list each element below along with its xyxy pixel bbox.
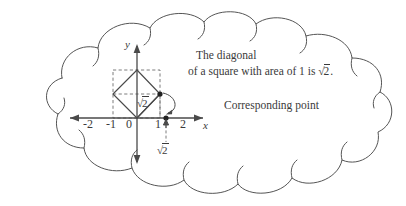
x-tick-label-one: 1 bbox=[155, 118, 161, 130]
x-axis-left-arrow bbox=[70, 115, 79, 122]
axis-radical: √2 bbox=[157, 145, 169, 156]
caption-line-1: The diagonal bbox=[196, 50, 256, 62]
x-axis-label: x bbox=[203, 120, 208, 131]
x-tick-label-two: 2 bbox=[180, 118, 186, 130]
cloud-puff-notches bbox=[58, 22, 380, 184]
caption-line-2: of a square with area of 1 is √2. bbox=[188, 66, 333, 78]
caption-radical: √2 bbox=[318, 66, 330, 78]
caption-period: . bbox=[330, 65, 333, 77]
diagonal-length-label: √2 bbox=[137, 98, 149, 109]
mapping-arc-arrowhead bbox=[166, 109, 173, 114]
x-tick-label-minus-2: -2 bbox=[83, 118, 93, 130]
figure-canvas: The diagonal of a square with area of 1 … bbox=[0, 0, 406, 206]
x-tick-label-minus-1: -1 bbox=[106, 118, 116, 130]
axis-value-label: √2 bbox=[157, 145, 169, 156]
x-axis-right-arrow bbox=[194, 115, 203, 122]
corresponding-point-tick bbox=[163, 120, 168, 129]
axis-radicand: 2 bbox=[162, 143, 169, 156]
y-axis-up-arrow bbox=[134, 44, 141, 53]
diamond-right-vertex-point bbox=[157, 91, 162, 96]
y-axis-label: y bbox=[125, 39, 130, 50]
diagonal-radical: √2 bbox=[137, 98, 149, 109]
math-illustration bbox=[0, 0, 406, 206]
caption-line-2-text: of a square with area of 1 is bbox=[188, 65, 315, 77]
corresponding-point-label: Corresponding point bbox=[224, 100, 319, 112]
y-axis-down-arrow bbox=[134, 155, 141, 164]
x-tick-label-zero: 0 bbox=[126, 118, 132, 130]
mapping-arc-arrow bbox=[163, 93, 175, 113]
thought-bubble-outline bbox=[46, 12, 391, 194]
diagonal-radicand: 2 bbox=[142, 96, 149, 109]
